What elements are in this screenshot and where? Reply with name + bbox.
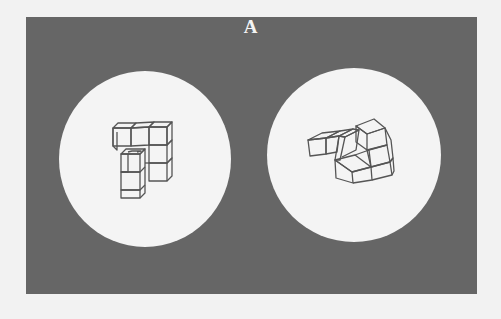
stimulus-drawing <box>0 0 501 319</box>
